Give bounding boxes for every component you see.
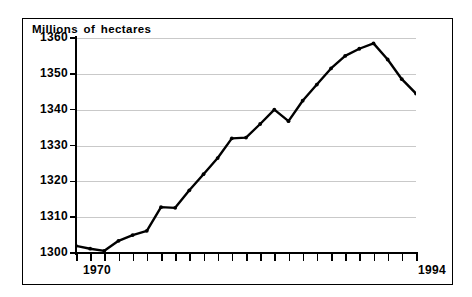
data-point-marker (386, 58, 390, 62)
x-axis-tick-mark (133, 254, 135, 261)
x-axis-tick-mark (232, 254, 234, 261)
y-axis-tick-mark (70, 73, 76, 75)
data-point-marker (343, 54, 347, 58)
y-axis-tick-mark (70, 145, 76, 147)
x-axis-tick-mark (260, 254, 262, 261)
data-point-marker (372, 41, 376, 45)
data-point-marker (145, 229, 149, 233)
x-axis-tick-mark (289, 254, 291, 261)
x-axis-tick-mark (246, 254, 248, 261)
x-axis-tick-mark (204, 254, 206, 261)
data-point-marker (301, 99, 305, 103)
x-axis-tick-mark (359, 254, 361, 261)
data-point-marker (202, 172, 206, 176)
x-axis-tick-mark (90, 254, 92, 261)
data-point-marker (173, 206, 177, 210)
x-axis-tick-mark (345, 254, 347, 261)
y-axis-tick-label: 1360 (40, 30, 68, 44)
data-point-marker (159, 205, 163, 209)
x-axis-tick-mark (218, 254, 220, 261)
x-axis-end-label: 1994 (418, 263, 446, 277)
data-point-marker (102, 249, 106, 253)
x-axis-start-label: 1970 (83, 263, 111, 277)
y-axis-tick-label: 1310 (40, 209, 68, 223)
data-point-marker (88, 247, 92, 251)
y-axis-tick-mark (70, 37, 76, 39)
y-axis-tick-label: 1330 (40, 138, 68, 152)
data-point-marker (329, 67, 333, 71)
x-axis-tick-mark (147, 254, 149, 261)
x-axis-tick-mark (76, 254, 78, 261)
y-axis-tick-label: 1340 (40, 102, 68, 116)
data-point-marker (117, 239, 121, 243)
data-point-marker (272, 108, 276, 112)
y-axis-tick-label: 1300 (40, 245, 68, 259)
y-axis-tick-mark (70, 216, 76, 218)
y-axis-tick-mark (70, 109, 76, 111)
x-axis-tick-mark (175, 254, 177, 261)
plot-area (76, 38, 416, 253)
x-axis-tick-mark (303, 254, 305, 261)
x-axis-tick-mark (317, 254, 319, 261)
line-series-svg (76, 38, 416, 253)
x-axis-tick-mark (104, 254, 106, 261)
data-point-marker (287, 119, 291, 123)
data-point-marker (315, 83, 319, 87)
data-point-marker (258, 122, 262, 126)
x-axis-tick-mark (274, 254, 276, 261)
data-point-marker (244, 136, 248, 140)
data-point-marker (187, 188, 191, 192)
data-point-marker (400, 77, 404, 81)
line-series-path (76, 43, 416, 250)
data-point-marker (230, 136, 234, 140)
x-axis-tick-mark (331, 254, 333, 261)
y-axis-tick-label: 1350 (40, 66, 68, 80)
x-axis-tick-mark (189, 254, 191, 261)
chart-figure: Millions of hectares 1360135013401330132… (0, 0, 472, 297)
data-point-marker (131, 233, 135, 237)
data-point-marker (216, 156, 220, 160)
x-axis-tick-mark (388, 254, 390, 261)
x-axis-tick-mark (374, 254, 376, 261)
y-axis-tick-label: 1320 (40, 173, 68, 187)
x-axis-tick-mark (402, 254, 404, 261)
y-axis-tick-mark (70, 181, 76, 183)
y-axis-labels: 1360135013401330132013101300 (0, 0, 68, 297)
y-axis-tick-mark (70, 252, 76, 254)
data-point-marker (357, 47, 361, 51)
x-axis-tick-mark (119, 254, 121, 261)
data-point-markers (76, 41, 416, 252)
x-axis-tick-mark (161, 254, 163, 261)
x-axis-tick-mark (416, 254, 418, 261)
